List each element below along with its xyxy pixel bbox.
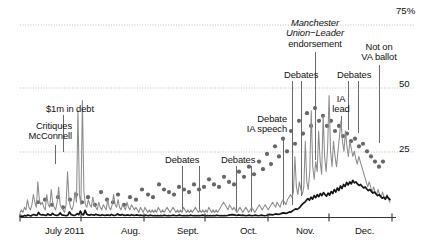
annotation-not-on-va-ballot: Not on VA ballot [354,42,404,63]
scatter-point [134,198,138,202]
scatter-point [281,137,285,141]
y-axis-label-50: 50 [399,78,410,89]
scatter-point [140,187,144,191]
annotation-critiques-mcconnell: Critiques McConnell [0,121,72,142]
y-axis-label-25: 25 [399,143,410,154]
annotation-debate-ia-speech: Debate IA speech [225,114,287,135]
scatter-point [305,111,309,115]
scatter-point [172,193,176,197]
scatter-point [242,175,246,179]
scatter-point [222,175,226,179]
scatter-point [369,154,373,158]
annotation-manchester-union-leader: ManchesterUnion−Leaderendorsement [265,18,365,49]
scatter-point [99,190,103,194]
scatter-point [353,137,357,141]
scatter-point [361,142,365,146]
scatter-point [237,170,241,174]
scatter-point [177,185,181,189]
scatter-point [381,159,385,163]
annotation-line: Manchester [291,17,339,28]
scatter-point [227,180,231,184]
scatter-point [146,193,150,197]
scatter-point [365,149,369,153]
scatter-point [269,162,273,166]
scatter-point [162,187,166,191]
scatter-point [86,195,90,199]
annotation-debates-sept: Debates [165,155,199,165]
annotation-debates-dec: Debates [337,70,371,80]
scatter-point [182,187,186,191]
scatter-point [373,159,377,163]
scatter-point [313,106,317,110]
scatter-point [232,182,236,186]
annotation-debates-nov: Debates [284,70,318,80]
scatter-point [265,152,269,156]
scatter-point [297,119,301,123]
scatter-point [357,144,361,148]
annotation-1m-in-debt: $1m in debt [46,104,94,114]
scatter-point [257,159,261,163]
scatter-point [293,142,297,146]
scatter-point [187,190,191,194]
scatter-point [151,195,155,199]
scatter-point [167,190,171,194]
scatter-point [333,129,337,133]
x-axis-label-dec: Dec. [355,225,374,236]
annotation-line: Union−Leader [286,27,344,38]
x-axis-label-nov: Nov. [296,225,315,236]
scatter-point [252,172,256,176]
x-axis-label-aug: Aug. [121,225,140,236]
annotation-line: endorsement [288,38,342,49]
scatter-point [273,144,277,148]
x-axis-label-oct: Oct. [240,225,257,236]
scatter-point [285,149,289,153]
scatter-point [192,182,196,186]
scatter-point [212,182,216,186]
chart-container: 75% 50 25 July 2011 Aug. Sept. Oct. Nov.… [0,0,426,250]
scatter-point [128,195,132,199]
annotation-debates-oct: Debates [221,155,255,165]
scatter-point [207,177,211,181]
scatter-point [197,187,201,191]
scatter-point [202,185,206,189]
x-axis-label-july: July 2011 [45,225,84,236]
scatter-point [301,131,305,135]
scatter-point [116,193,120,197]
y-axis-label-75: 75% [396,5,415,16]
scatter-point [277,154,281,158]
scatter-point [157,182,161,186]
scatter-point [217,185,221,189]
scatter-point [317,119,321,123]
annotation-ia-lead: IA lead [329,94,353,115]
scatter-point [289,129,293,133]
scatter-point [377,165,381,169]
scatter-point [261,167,265,171]
x-axis-label-sept: Sept. [177,225,199,236]
